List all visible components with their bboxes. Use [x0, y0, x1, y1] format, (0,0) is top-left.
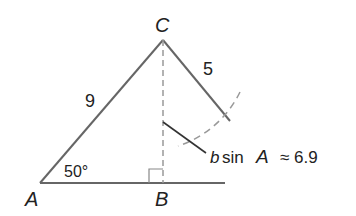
vertex-label-b: B — [155, 188, 168, 210]
vertex-label-c: C — [155, 14, 170, 36]
side-ac — [40, 40, 163, 183]
leader-line — [163, 122, 206, 153]
side-label-5: 5 — [203, 59, 213, 79]
altitude-label-sin: sin — [222, 148, 244, 167]
swing-arc — [178, 92, 240, 146]
side-c-swing — [163, 40, 230, 121]
right-angle-marker — [149, 169, 163, 183]
altitude-label-b: b — [210, 148, 219, 167]
altitude-value: ≈ 6.9 — [280, 148, 318, 167]
side-label-9: 9 — [85, 91, 95, 111]
triangle-diagram: C A B 9 5 50° b sin A ≈ 6.9 — [0, 0, 356, 216]
altitude-label-a: A — [255, 146, 269, 167]
angle-label: 50° — [64, 163, 88, 180]
vertex-label-a: A — [24, 188, 38, 210]
